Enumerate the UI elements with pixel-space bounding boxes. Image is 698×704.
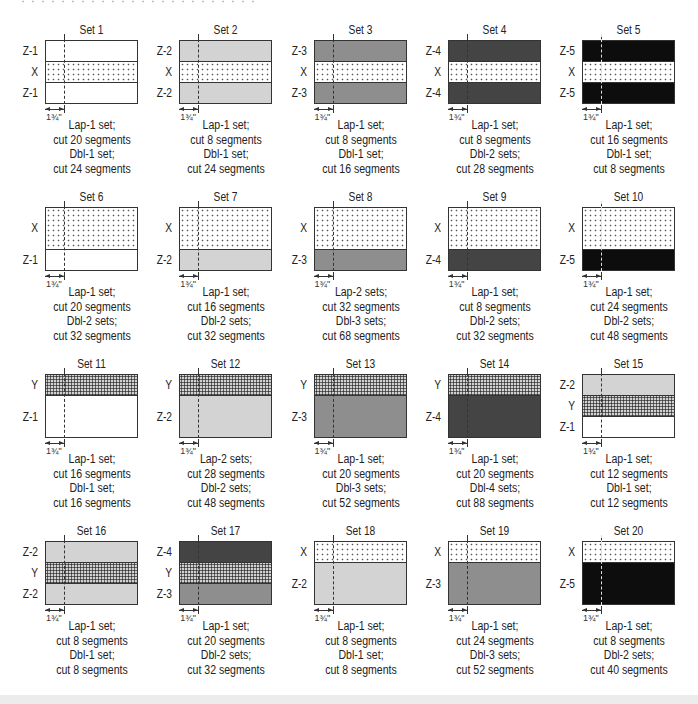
caption-line: Dbl-1 set;: [574, 147, 683, 162]
set-caption: Lap-1 set;cut 20 segmentsDbl-2 sets;cut …: [37, 285, 146, 343]
caption-line: cut 24 segments: [172, 162, 281, 177]
strip-label: X: [274, 545, 306, 559]
caption-line: Lap-1 set;: [306, 118, 415, 133]
strip-x: [180, 61, 271, 82]
set-diagram: Set 11YZ-11¾"Lap-1 set;cut 16 segmentsDb…: [0, 374, 134, 541]
strip-x: [315, 208, 406, 249]
strip-label: X: [274, 221, 306, 235]
strip-label: Z-4: [408, 86, 440, 100]
strip-z-3: [315, 82, 406, 103]
set-caption: Lap-2 sets;cut 28 segmentsDbl-2 sets;cut…: [172, 452, 281, 510]
caption-line: Dbl-1 set;: [306, 147, 415, 162]
caption-line: cut 8 segments: [574, 162, 683, 177]
cut-line-dashed: [601, 535, 602, 605]
strip-label: Z-1: [6, 253, 38, 267]
caption-line: cut 16 segments: [172, 300, 281, 315]
strip-y: [583, 395, 674, 416]
caption-line: cut 8 segments: [440, 300, 549, 315]
cut-line-dashed: [601, 368, 602, 438]
set-caption: Lap-1 set;cut 16 segmentsDbl-1 set;cut 8…: [574, 118, 683, 176]
strip-label: X: [274, 65, 306, 79]
strip-z-4: [449, 82, 540, 103]
strip-label: Z-4: [140, 545, 172, 559]
set-diagram: Set 12YZ-21¾"Lap-2 sets;cut 28 segmentsD…: [134, 374, 268, 541]
strip-label: Z-1: [543, 420, 575, 434]
caption-line: Dbl-2 sets;: [172, 648, 281, 663]
caption-line: Dbl-3 sets;: [306, 314, 415, 329]
strip-z-4: [449, 249, 540, 270]
set-diagram: Set 14YZ-41¾"Lap-1 set;cut 20 segmentsDb…: [403, 374, 537, 541]
set-diagram: Set 2Z-2XZ-21¾"Lap-1 set;cut 8 segmentsD…: [134, 40, 268, 207]
set-caption: Lap-1 set;cut 8 segmentsDbl-1 set;cut 8 …: [306, 619, 415, 677]
set-diagram: Set 1Z-1XZ-11¾"Lap-1 set;cut 20 segments…: [0, 40, 134, 207]
strip-label: X: [408, 65, 440, 79]
strip-label: Y: [140, 566, 172, 580]
caption-line: cut 12 segments: [574, 496, 683, 511]
set-diagram: Set 13YZ-31¾"Lap-1 set;cut 20 segmentsDb…: [269, 374, 403, 541]
strip-label: Z-4: [408, 410, 440, 424]
cut-line-dashed: [467, 535, 468, 605]
caption-line: cut 24 segments: [574, 300, 683, 315]
strip-y: [180, 562, 271, 583]
caption-line: cut 48 segments: [574, 329, 683, 344]
caption-line: cut 24 segments: [440, 634, 549, 649]
strip-z-1: [583, 416, 674, 437]
strip-x: [449, 542, 540, 562]
block-layout: [448, 207, 541, 271]
caption-line: Dbl-2 sets;: [37, 314, 146, 329]
block-layout: [582, 541, 675, 605]
caption-line: Dbl-1 set;: [172, 147, 281, 162]
block-layout: [314, 374, 407, 438]
caption-line: Lap-1 set;: [574, 619, 683, 634]
set-caption: Lap-1 set;cut 8 segmentsDbl-2 sets;cut 4…: [574, 619, 683, 677]
caption-line: Lap-1 set;: [37, 619, 146, 634]
caption-line: cut 8 segments: [306, 663, 415, 678]
set-caption: Lap-1 set;cut 8 segmentsDbl-2 sets;cut 2…: [440, 118, 549, 176]
block-layout: [45, 207, 138, 271]
set-diagram: Set 3Z-3XZ-31¾"Lap-1 set;cut 8 segmentsD…: [269, 40, 403, 207]
strip-z-1: [46, 249, 137, 270]
caption-line: Dbl-2 sets;: [172, 481, 281, 496]
strip-label: Z-4: [408, 44, 440, 58]
block-layout: [45, 541, 138, 605]
set-caption: Lap-1 set;cut 16 segmentsDbl-1 set;cut 1…: [37, 452, 146, 510]
strip-label: Z-5: [543, 86, 575, 100]
caption-line: cut 32 segments: [440, 329, 549, 344]
set-caption: Lap-1 set;cut 24 segmentsDbl-3 sets;cut …: [440, 619, 549, 677]
block-layout: [179, 207, 272, 271]
set-diagram: Set 20XZ-51¾"Lap-1 set;cut 8 segmentsDbl…: [537, 541, 671, 704]
cut-line-dashed: [198, 201, 199, 271]
block-layout: [179, 40, 272, 104]
strip-label: Z-5: [543, 253, 575, 267]
set-caption: Lap-1 set;cut 8 segmentsDbl-1 set;cut 8 …: [37, 619, 146, 677]
strip-label: Z-3: [274, 86, 306, 100]
caption-line: cut 24 segments: [37, 162, 146, 177]
strip-z-4: [449, 395, 540, 437]
strip-label: Z-2: [140, 410, 172, 424]
caption-line: cut 52 segments: [440, 663, 549, 678]
set-diagram: Set 15Z-2YZ-11¾"Lap-1 set;cut 12 segment…: [537, 374, 671, 541]
caption-line: Dbl-2 sets;: [574, 648, 683, 663]
strip-x: [46, 208, 137, 249]
strip-x: [180, 208, 271, 249]
caption-line: Dbl-1 set;: [306, 648, 415, 663]
set-caption: Lap-1 set;cut 16 segmentsDbl-2 sets;cut …: [172, 285, 281, 343]
caption-line: cut 20 segments: [440, 467, 549, 482]
set-diagram: Set 17Z-4YZ-31¾"Lap-1 set;cut 20 segment…: [134, 541, 268, 704]
strip-z-2: [180, 395, 271, 437]
strip-z-3: [315, 41, 406, 61]
strip-z-3: [315, 395, 406, 437]
strip-y: [46, 562, 137, 583]
block-layout: [314, 40, 407, 104]
block-layout: [448, 374, 541, 438]
strip-label: Z-1: [6, 410, 38, 424]
caption-line: Dbl-1 set;: [37, 481, 146, 496]
strip-z-2: [583, 375, 674, 395]
caption-line: Lap-1 set;: [306, 452, 415, 467]
strip-label: Z-2: [543, 378, 575, 392]
set-caption: Lap-2 sets;cut 32 segmentsDbl-3 sets;cut…: [306, 285, 415, 343]
block-layout: [179, 541, 272, 605]
caption-line: Dbl-1 set;: [37, 147, 146, 162]
caption-line: cut 40 segments: [574, 663, 683, 678]
strip-z-4: [449, 41, 540, 61]
